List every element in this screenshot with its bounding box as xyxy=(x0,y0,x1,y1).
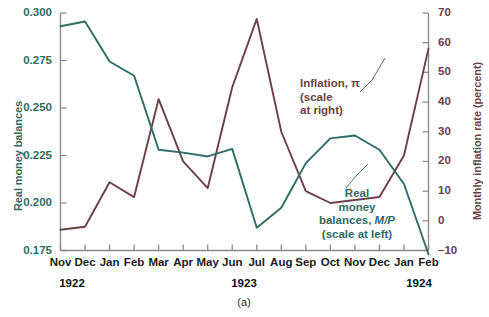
annotation-real-money-line3: balances, M/P xyxy=(303,214,411,228)
axis-right-tick-label: 50 xyxy=(438,65,478,77)
axis-right-tick-label: 10 xyxy=(438,184,478,196)
axis-left-tick-label: 0.300 xyxy=(6,6,52,18)
axis-x-ticks xyxy=(61,245,429,251)
annotation-inflation-line2: (scale xyxy=(300,91,360,105)
line-chart-svg xyxy=(0,0,489,317)
axis-left-tick-label: 0.250 xyxy=(6,101,52,113)
leader-line-real-money xyxy=(346,164,368,188)
axis-x-year-label: 1922 xyxy=(42,277,102,289)
axis-right-tick-label: 30 xyxy=(438,125,478,137)
figure-panel: Real money balances Monthly inflation ra… xyxy=(0,0,489,317)
annotation-real-money-line2: money xyxy=(303,201,411,215)
axis-right-tick-label: 70 xyxy=(438,6,478,18)
axis-right-tick-label: 0 xyxy=(438,214,478,226)
axis-right-tick-label: 20 xyxy=(438,154,478,166)
annotation-real-money-symbol: M/P xyxy=(375,214,395,226)
annotation-inflation-line3: at right) xyxy=(300,104,360,118)
axis-left-tick-label: 0.275 xyxy=(6,54,52,66)
leader-line-inflation xyxy=(360,58,385,92)
axis-left-tick-label: 0.200 xyxy=(6,196,52,208)
annotation-real-money: Real money balances, M/P (scale at left) xyxy=(303,187,411,241)
axis-x-tick-label: Feb xyxy=(409,256,449,268)
axis-left-tick-label: 0.225 xyxy=(6,149,52,161)
axis-x-year-label: 1924 xyxy=(389,277,449,289)
annotation-real-money-line1: Real xyxy=(303,187,411,201)
figure-caption: (a) xyxy=(214,296,274,308)
annotation-inflation: Inflation, π (scale at right) xyxy=(300,77,360,118)
annotation-real-money-line3-text: balances, xyxy=(319,214,375,226)
annotation-real-money-line4: (scale at left) xyxy=(303,228,411,242)
annotation-inflation-line1: Inflation, π xyxy=(300,77,360,91)
axis-right-tick-label: 40 xyxy=(438,95,478,107)
axis-left-ticks xyxy=(61,13,67,251)
axis-x-year-label: 1923 xyxy=(214,277,274,289)
axis-left-tick-label: 0.175 xyxy=(6,244,52,256)
axis-right-tick-label: 60 xyxy=(438,36,478,48)
axis-right-tick-label: –10 xyxy=(438,244,478,256)
